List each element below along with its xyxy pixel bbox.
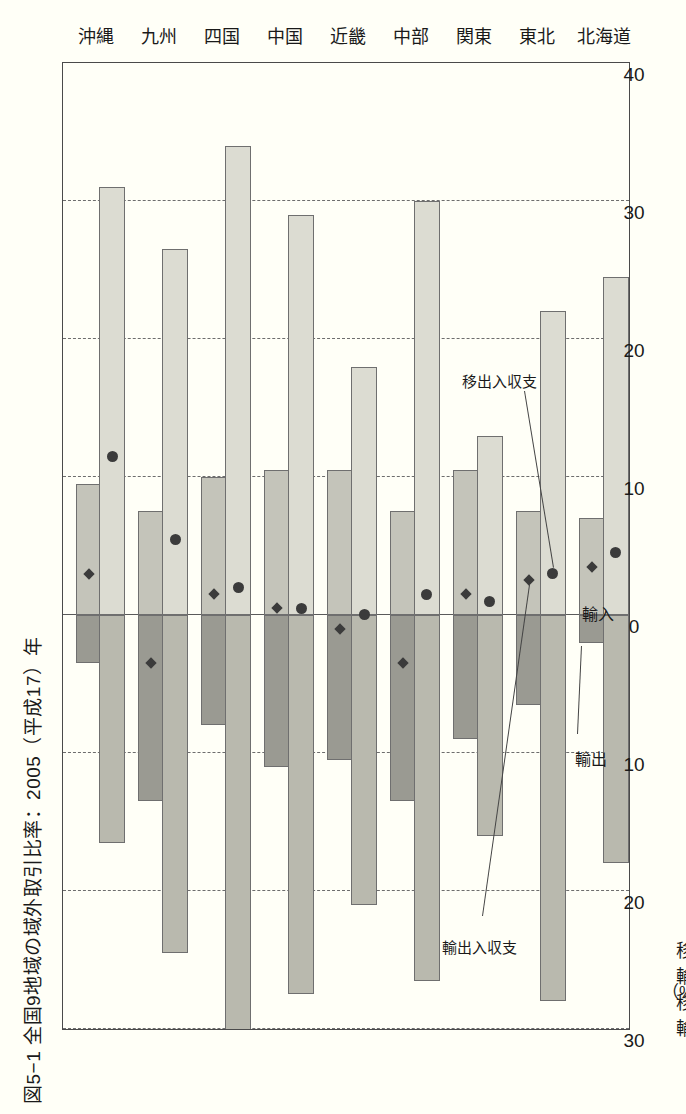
bar-out-shipment xyxy=(99,615,125,843)
bar-export xyxy=(453,615,479,739)
category-labels: 北海道東北関東中部近畿中国四国九州沖縄 xyxy=(62,12,628,58)
gridline xyxy=(63,62,629,63)
bar-out-shipment xyxy=(540,615,566,1001)
bar-in-shipment xyxy=(288,215,314,615)
bar-export xyxy=(264,615,290,767)
category-label-1: 東北 xyxy=(514,22,560,48)
plot-area: 移出移入輸入輸出輸出入収支移出入収支 xyxy=(62,62,630,1030)
bar-in-shipment xyxy=(603,277,629,615)
category-label-2: 関東 xyxy=(451,22,497,48)
bar-export xyxy=(327,615,353,760)
annotation-export: 輸出 xyxy=(575,746,607,770)
gridline xyxy=(63,200,629,201)
bar-export xyxy=(201,615,227,725)
marker-shipment-balance xyxy=(296,603,307,614)
figure-canvas: 図5−1 全国9地域の域外取引比率：2005（平成17）年 移出移入輸入輸出輸出… xyxy=(0,0,686,1114)
callout-shipment-balance: 移出入収支 xyxy=(462,374,537,391)
bar-export xyxy=(516,615,542,705)
legend-left: 移出（+）輸出（+）移出入収支（+）輸出入収支（+） xyxy=(676,938,686,1042)
bar-import xyxy=(264,470,290,615)
marker-shipment-balance xyxy=(170,534,181,545)
bar-in-shipment xyxy=(351,367,377,615)
legend-entry: 移出（+） xyxy=(676,938,686,964)
axis-tick-label: 40 xyxy=(623,64,644,86)
axis-tick-label: 10 xyxy=(623,478,644,500)
bar-in-shipment xyxy=(225,146,251,615)
legend-entry: 輸出（+） xyxy=(676,964,686,990)
category-label-5: 中国 xyxy=(262,22,308,48)
x-axis-ticks: （%） 302010010203040 xyxy=(634,64,668,1030)
bar-in-shipment xyxy=(99,187,125,615)
category-label-0: 北海道 xyxy=(577,22,623,48)
category-label-6: 四国 xyxy=(199,22,245,48)
bar-in-shipment xyxy=(162,249,188,615)
category-label-8: 沖縄 xyxy=(73,22,119,48)
figure-stage: 図5−1 全国9地域の域外取引比率：2005（平成17）年 移出移入輸入輸出輸出… xyxy=(0,0,686,1114)
bar-out-shipment xyxy=(414,615,440,981)
category-label-3: 中部 xyxy=(388,22,434,48)
bar-import xyxy=(327,470,353,615)
bar-import xyxy=(76,484,102,615)
axis-tick-label: 30 xyxy=(623,202,644,224)
axis-tick-label: 20 xyxy=(623,892,644,914)
category-label-4: 近畿 xyxy=(325,22,371,48)
marker-shipment-balance xyxy=(484,596,495,607)
bar-export xyxy=(76,615,102,663)
annotation-import: 輸入 xyxy=(582,601,614,625)
bar-out-shipment xyxy=(603,615,629,863)
legend-entry: 輸出入収支（+） xyxy=(676,1016,686,1042)
bar-out-shipment xyxy=(351,615,377,905)
marker-shipment-balance xyxy=(107,451,118,462)
bar-import xyxy=(390,512,416,616)
legend-entry: 移出入収支（+） xyxy=(676,990,686,1016)
axis-tick-label: 0 xyxy=(629,616,640,638)
axis-tick-label: 10 xyxy=(623,754,644,776)
axis-tick-label: 30 xyxy=(623,1030,644,1052)
bar-import xyxy=(138,512,164,616)
bar-export xyxy=(138,615,164,801)
bar-out-shipment xyxy=(162,615,188,953)
callout-trade-balance: 輸出入収支 xyxy=(442,939,517,956)
bar-in-shipment xyxy=(477,436,503,615)
category-label-7: 九州 xyxy=(136,22,182,48)
bar-in-shipment xyxy=(414,201,440,615)
figure-title: 図5−1 全国9地域の域外取引比率：2005（平成17）年 xyxy=(18,636,45,1104)
bar-import xyxy=(516,512,542,616)
bar-out-shipment xyxy=(288,615,314,995)
bar-export xyxy=(390,615,416,801)
axis-tick-label: 20 xyxy=(623,340,644,362)
marker-shipment-balance xyxy=(233,582,244,593)
gridline xyxy=(63,1028,629,1029)
leader-export xyxy=(577,645,582,733)
marker-shipment-balance xyxy=(359,610,370,621)
bar-out-shipment xyxy=(225,615,251,1030)
